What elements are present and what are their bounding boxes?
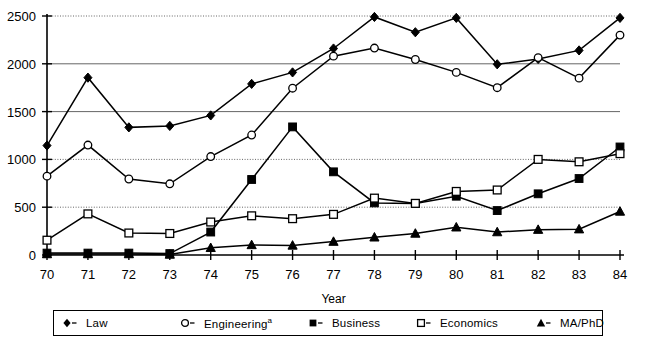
data-point xyxy=(616,31,624,39)
x-tick-label: 78 xyxy=(367,267,381,282)
legend-marker-filled-diamond xyxy=(62,317,80,329)
x-tick-label: 74 xyxy=(203,267,217,282)
data-point xyxy=(125,175,133,183)
x-tick-label: 81 xyxy=(490,267,504,282)
data-point xyxy=(289,123,297,131)
series-line xyxy=(47,17,620,146)
x-axis-title: Year xyxy=(321,292,345,306)
data-point xyxy=(575,74,583,82)
legend-label: Law xyxy=(86,317,108,329)
data-point xyxy=(575,46,583,55)
legend-label: MA/PhD xyxy=(560,317,604,329)
y-tick-label: 1000 xyxy=(7,152,36,167)
x-tick-label: 77 xyxy=(326,267,340,282)
x-tick-label: 71 xyxy=(81,267,95,282)
data-point xyxy=(166,230,174,238)
marker-glyph xyxy=(418,320,425,327)
y-tick-label: 500 xyxy=(14,200,36,215)
x-tick-label: 75 xyxy=(244,267,258,282)
line-chart: 0500100015002000250070717273747576777879… xyxy=(0,0,647,340)
legend-label: Economics xyxy=(440,317,498,329)
data-point xyxy=(616,13,624,22)
marker-glyph xyxy=(63,319,70,327)
data-point xyxy=(411,28,419,37)
data-point xyxy=(84,141,92,149)
data-point xyxy=(248,131,256,139)
data-point xyxy=(371,44,379,52)
y-tick-label: 1500 xyxy=(7,105,36,120)
data-point xyxy=(248,79,256,88)
legend-label: Engineeringa xyxy=(204,316,272,330)
data-point xyxy=(207,153,215,161)
data-point xyxy=(289,68,297,77)
data-point xyxy=(371,194,379,202)
data-point xyxy=(289,215,297,223)
data-point xyxy=(575,158,583,166)
x-tick-label: 73 xyxy=(163,267,177,282)
legend-marker-wrap xyxy=(536,317,554,329)
data-point xyxy=(534,190,542,198)
x-tick-label: 80 xyxy=(449,267,463,282)
x-tick-label: 76 xyxy=(285,267,299,282)
x-tick-label: 84 xyxy=(613,267,627,282)
data-point xyxy=(493,207,501,215)
legend-item-engineering[interactable]: Engineeringa xyxy=(180,316,308,330)
legend-row: LawEngineeringaBusinessEconomicsMA/PhD xyxy=(54,311,602,335)
data-point xyxy=(452,69,460,77)
data-point xyxy=(125,229,133,237)
data-point xyxy=(207,228,215,236)
data-point xyxy=(412,56,420,64)
data-point xyxy=(493,84,501,92)
chart-legend: LawEngineeringaBusinessEconomicsMA/PhD xyxy=(53,310,603,336)
legend-marker-open-circle xyxy=(180,317,198,329)
x-tick-label: 83 xyxy=(572,267,586,282)
data-point xyxy=(330,52,338,60)
legend-item-business[interactable]: Business xyxy=(308,317,416,329)
data-point xyxy=(248,176,256,184)
data-point xyxy=(330,210,338,218)
data-point xyxy=(534,156,542,164)
data-point xyxy=(370,12,378,21)
y-tick-label: 2500 xyxy=(7,9,36,24)
data-point xyxy=(575,175,583,183)
data-point xyxy=(43,172,51,180)
x-tick-label: 70 xyxy=(40,267,54,282)
legend-item-ma-phd[interactable]: MA/PhD xyxy=(536,317,626,329)
legend-marker-wrap xyxy=(416,317,434,329)
y-tick-label: 0 xyxy=(29,248,36,263)
x-tick-label: 82 xyxy=(531,267,545,282)
data-point xyxy=(493,186,501,194)
data-point xyxy=(452,222,461,231)
data-point xyxy=(534,54,542,62)
data-point xyxy=(166,121,174,130)
marker-glyph xyxy=(182,320,189,327)
legend-marker-filled-triangle xyxy=(536,317,554,329)
series-law xyxy=(43,12,624,150)
series-engineering xyxy=(43,31,624,187)
x-tick-label: 72 xyxy=(122,267,136,282)
data-point xyxy=(616,150,624,158)
data-point xyxy=(289,84,297,92)
data-point xyxy=(84,210,92,218)
legend-marker-open-square xyxy=(416,317,434,329)
data-point xyxy=(411,199,419,207)
x-tick-label: 79 xyxy=(408,267,422,282)
data-point xyxy=(207,111,215,120)
legend-label: Business xyxy=(332,317,380,329)
plot-area: 0500100015002000250070717273747576777879… xyxy=(0,0,647,310)
legend-marker-wrap xyxy=(180,317,198,329)
legend-marker-filled-square xyxy=(308,317,326,329)
data-point xyxy=(452,188,460,196)
legend-marker-wrap xyxy=(308,317,326,329)
data-point xyxy=(207,218,215,226)
legend-item-law[interactable]: Law xyxy=(62,317,180,329)
y-tick-label: 2000 xyxy=(7,57,36,72)
data-point xyxy=(248,212,256,220)
marker-glyph xyxy=(537,319,545,327)
legend-label-superscript: a xyxy=(268,316,273,325)
legend-marker-wrap xyxy=(62,317,80,329)
marker-glyph xyxy=(310,320,317,327)
legend-item-economics[interactable]: Economics xyxy=(416,317,536,329)
data-point xyxy=(615,207,624,216)
data-point xyxy=(330,168,338,176)
